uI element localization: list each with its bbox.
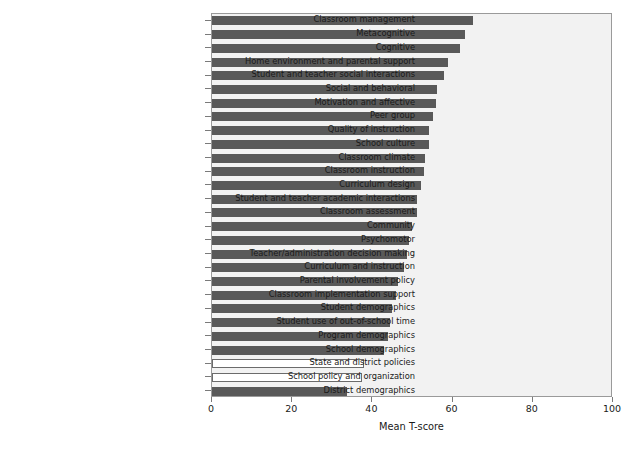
y-axis-tick-label: Student use of out-of-school time bbox=[276, 317, 415, 326]
y-axis-tick-label: Teacher/administration decision making bbox=[249, 249, 415, 258]
y-axis-tick-label: Classroom management bbox=[313, 15, 415, 24]
y-axis-tick-label: Student and teacher academic interaction… bbox=[235, 194, 415, 203]
y-tick-mark bbox=[205, 102, 211, 103]
y-axis-tick-label: Metacognitive bbox=[356, 29, 415, 38]
y-tick-mark bbox=[205, 376, 211, 377]
x-axis-tick-label: 20 bbox=[266, 403, 316, 414]
y-tick-mark bbox=[205, 20, 211, 21]
y-axis-tick-label: Curriculum design bbox=[339, 180, 415, 189]
y-axis-tick-label: Motivation and affective bbox=[314, 98, 415, 107]
y-tick-mark bbox=[205, 47, 211, 48]
x-tick-mark bbox=[452, 397, 453, 402]
bar-chart: Classroom managementMetacognitiveCogniti… bbox=[0, 0, 632, 449]
x-tick-mark bbox=[532, 397, 533, 402]
y-axis-tick-label: School culture bbox=[356, 139, 415, 148]
y-tick-mark bbox=[205, 335, 211, 336]
x-tick-mark bbox=[371, 397, 372, 402]
y-axis-tick-label: Classroom implementation support bbox=[269, 290, 415, 299]
y-tick-mark bbox=[205, 88, 211, 89]
y-tick-mark bbox=[205, 253, 211, 254]
y-axis-tick-label: Program demographics bbox=[318, 331, 415, 340]
y-axis-tick-label: Psychomotor bbox=[361, 235, 415, 244]
y-tick-mark bbox=[205, 226, 211, 227]
y-axis-tick-label: State and district policies bbox=[310, 358, 415, 367]
y-tick-mark bbox=[205, 212, 211, 213]
y-tick-mark bbox=[205, 390, 211, 391]
y-tick-mark bbox=[205, 239, 211, 240]
y-tick-mark bbox=[205, 280, 211, 281]
x-axis-tick-label: 60 bbox=[427, 403, 477, 414]
x-axis-tick-label: 0 bbox=[186, 403, 236, 414]
x-axis-title: Mean T-score bbox=[211, 421, 612, 432]
y-tick-mark bbox=[205, 198, 211, 199]
y-axis-tick-label: School policy and organization bbox=[288, 372, 415, 381]
y-axis-tick-label: Quality of instruction bbox=[328, 125, 415, 134]
x-tick-mark bbox=[612, 397, 613, 402]
y-tick-mark bbox=[205, 61, 211, 62]
y-axis-tick-label: Student demographics bbox=[321, 303, 415, 312]
y-axis-tick-label: Parental involvement policy bbox=[300, 276, 415, 285]
y-tick-mark bbox=[205, 130, 211, 131]
y-tick-mark bbox=[205, 322, 211, 323]
y-tick-mark bbox=[205, 143, 211, 144]
x-axis-tick-label: 40 bbox=[346, 403, 396, 414]
x-axis-tick-label: 80 bbox=[507, 403, 557, 414]
y-axis-tick-label: Community bbox=[367, 221, 415, 230]
y-tick-mark bbox=[205, 184, 211, 185]
y-tick-mark bbox=[205, 171, 211, 172]
bar bbox=[212, 44, 460, 53]
y-tick-mark bbox=[205, 267, 211, 268]
y-tick-mark bbox=[205, 308, 211, 309]
x-tick-mark bbox=[291, 397, 292, 402]
y-axis-tick-label: Classroom assessment bbox=[320, 207, 415, 216]
y-axis-tick-label: Peer group bbox=[370, 111, 415, 120]
bar bbox=[212, 30, 465, 39]
y-axis-tick-label: District demographics bbox=[324, 386, 415, 395]
y-tick-mark bbox=[205, 75, 211, 76]
y-axis-tick-label: Home environment and parental support bbox=[245, 57, 415, 66]
y-tick-mark bbox=[205, 116, 211, 117]
y-tick-mark bbox=[205, 349, 211, 350]
y-axis-tick-label: Student and teacher social interactions bbox=[252, 70, 415, 79]
y-axis-tick-label: School demographics bbox=[326, 345, 415, 354]
y-axis-tick-label: Classroom instruction bbox=[325, 166, 415, 175]
y-axis-tick-label: Social and behavioral bbox=[326, 84, 415, 93]
y-tick-mark bbox=[205, 363, 211, 364]
x-axis-tick-label: 100 bbox=[587, 403, 632, 414]
y-axis-tick-label: Cognitive bbox=[376, 43, 415, 52]
x-tick-mark bbox=[211, 397, 212, 402]
y-tick-mark bbox=[205, 157, 211, 158]
y-axis-tick-label: Classroom climate bbox=[338, 153, 415, 162]
y-tick-mark bbox=[205, 294, 211, 295]
y-tick-mark bbox=[205, 34, 211, 35]
y-axis-tick-label: Curriculum and instruction bbox=[304, 262, 415, 271]
